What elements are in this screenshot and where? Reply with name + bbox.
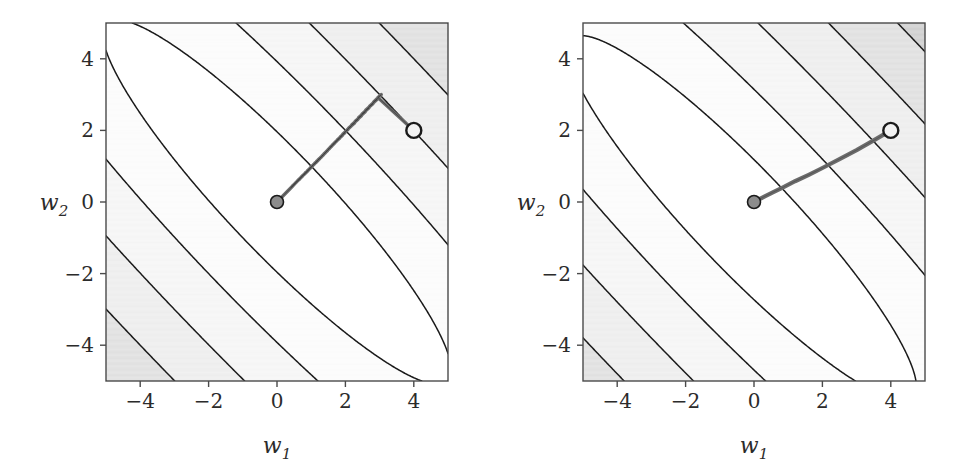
contour-band (421, 300, 448, 301)
contour-band (861, 200, 925, 201)
contour-band (106, 124, 148, 125)
contour-band (782, 188, 849, 189)
contour-band (403, 118, 448, 119)
contour-band (847, 113, 915, 114)
contour-band (423, 68, 448, 69)
contour-band (106, 273, 141, 274)
contour-band (690, 28, 765, 29)
contour-band (583, 130, 607, 131)
contour-band (183, 51, 267, 52)
contour-band (149, 208, 216, 209)
contour-band (819, 228, 886, 229)
contour-band (124, 180, 191, 181)
contour-band (754, 159, 822, 160)
contour-band (228, 292, 300, 293)
contour-band (106, 150, 168, 151)
contour-band (158, 35, 250, 36)
contour-band (416, 292, 448, 293)
contour-band (296, 79, 365, 80)
contour-band (274, 57, 345, 58)
contour-band (163, 367, 232, 368)
contour-band (106, 344, 140, 345)
contour-band (717, 332, 792, 333)
contour-band (177, 47, 264, 48)
y-tick-label: −2 (542, 262, 571, 286)
contour-band (280, 344, 361, 345)
contour-band (716, 52, 789, 53)
contour-band (106, 361, 156, 362)
contour-band (761, 95, 830, 96)
contour-band (384, 170, 448, 171)
contour-band (410, 283, 448, 284)
contour-band (333, 45, 402, 46)
contour-band (652, 338, 721, 339)
contour-band (866, 61, 925, 62)
contour-band (351, 64, 419, 65)
contour-band (614, 46, 709, 47)
contour-band (279, 344, 360, 345)
contour-band (428, 311, 448, 312)
contour-band (863, 58, 925, 59)
contour-band (306, 369, 399, 370)
contour-band (150, 355, 219, 356)
contour-band (259, 43, 331, 44)
contour-band (282, 66, 353, 67)
contour-band (785, 190, 852, 191)
contour-band (302, 85, 371, 86)
contour-band (304, 367, 395, 368)
contour-band (314, 377, 412, 378)
contour-band (908, 254, 925, 255)
contour-band (649, 68, 732, 69)
contour-band (772, 107, 841, 108)
contour-band (645, 331, 714, 332)
contour-band (607, 216, 674, 217)
contour-band (583, 181, 644, 182)
contour-band (106, 139, 159, 140)
contour-band (245, 309, 319, 310)
contour-band (730, 136, 802, 137)
contour-band (833, 98, 901, 99)
contour-band (295, 78, 364, 79)
contour-band (436, 326, 448, 327)
contour-band (583, 291, 608, 292)
contour-band (819, 84, 887, 85)
contour-band (385, 250, 448, 251)
contour-band (583, 332, 647, 333)
contour-band (583, 325, 640, 326)
contour-band (612, 45, 709, 46)
contour-band (212, 347, 283, 348)
contour-band (787, 121, 855, 122)
contour-band (627, 311, 695, 312)
contour-band (139, 344, 208, 345)
contour-band (106, 349, 146, 350)
contour-band (853, 270, 921, 271)
contour-band (864, 285, 925, 286)
contour-band (252, 317, 327, 318)
contour-band (391, 107, 448, 108)
contour-band (881, 76, 925, 77)
contour-band (842, 107, 910, 108)
contour-band (318, 172, 385, 173)
contour-band (636, 321, 704, 322)
contour-band (146, 205, 213, 206)
contour-band (276, 341, 357, 342)
contour-band (119, 173, 186, 174)
contour-band (106, 192, 135, 193)
contour-band (755, 370, 839, 371)
contour-band (306, 89, 375, 90)
contour-band (365, 225, 432, 226)
contour-band (125, 328, 193, 329)
contour-band (826, 89, 894, 90)
contour-band (870, 66, 925, 67)
contour-band (288, 141, 357, 142)
contour-band (106, 280, 147, 281)
contour-band (174, 309, 243, 310)
contour-band (707, 43, 780, 44)
contour-band (712, 49, 785, 50)
contour-band (153, 286, 221, 287)
contour-band (106, 153, 170, 154)
contour-band (106, 269, 138, 270)
contour-band (106, 322, 119, 323)
contour-band (106, 364, 159, 365)
contour-band (874, 297, 925, 298)
